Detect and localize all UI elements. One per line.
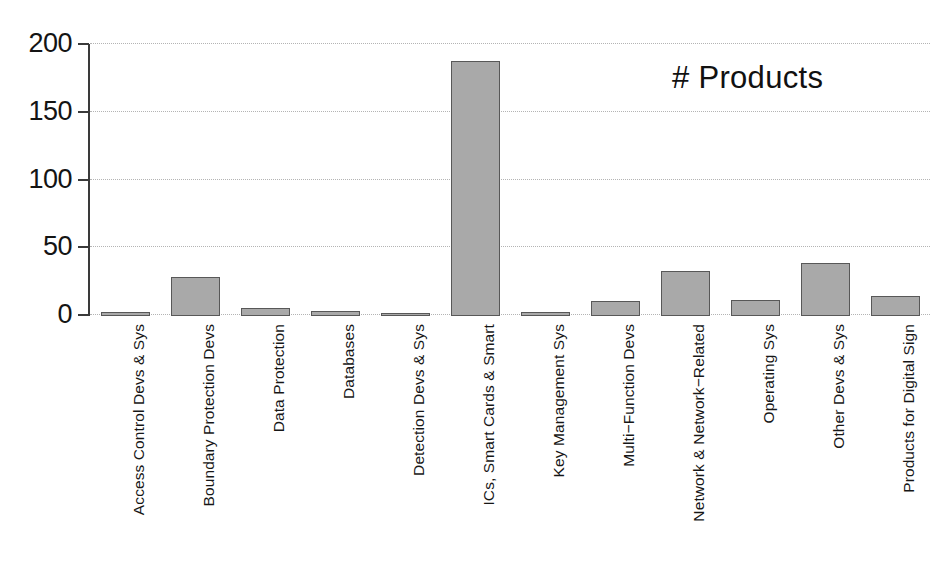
y-tick-mark bbox=[78, 314, 89, 316]
x-axis-labels: Access Control Devs & SysBoundary Protec… bbox=[90, 318, 930, 586]
y-tick-label: 200 bbox=[28, 30, 72, 57]
y-tick-mark bbox=[78, 179, 89, 181]
y-tick-mark bbox=[78, 111, 89, 113]
bar bbox=[661, 271, 710, 316]
x-axis-label: Key Management Sys bbox=[551, 324, 567, 477]
y-tick-label: 0 bbox=[57, 301, 72, 328]
bar bbox=[311, 311, 360, 316]
legend-label: # Products bbox=[672, 62, 823, 93]
x-axis-label: Network & Network−Related bbox=[691, 324, 707, 522]
bar bbox=[381, 313, 430, 316]
bar bbox=[801, 263, 850, 316]
bar bbox=[871, 296, 920, 316]
x-axis-label: Boundary Protection Devs bbox=[201, 324, 217, 506]
bar bbox=[101, 312, 150, 316]
x-axis-label: Other Devs & Sys bbox=[831, 324, 847, 449]
x-axis-label: ICs, Smart Cards & Smart bbox=[481, 324, 497, 506]
bar-chart: 050100150200 Access Control Devs & SysBo… bbox=[0, 0, 945, 586]
bar bbox=[731, 300, 780, 316]
y-tick-label: 50 bbox=[43, 233, 72, 260]
bar bbox=[171, 277, 220, 316]
x-axis-label: Data Protection bbox=[271, 324, 287, 432]
x-axis-label: Products for Digital Sign bbox=[901, 324, 917, 493]
bar bbox=[521, 312, 570, 316]
y-tick-mark bbox=[78, 246, 89, 248]
y-tick-mark bbox=[78, 43, 89, 45]
y-tick-label: 150 bbox=[28, 98, 72, 125]
bar bbox=[451, 61, 500, 316]
x-axis-label: Multi−Function Devs bbox=[621, 324, 637, 467]
x-axis-label: Detection Devs & Sys bbox=[411, 324, 427, 476]
y-tick-label: 100 bbox=[28, 166, 72, 193]
x-axis-label: Databases bbox=[341, 324, 357, 399]
bar bbox=[591, 301, 640, 316]
bar bbox=[241, 308, 290, 316]
x-axis-label: Operating Sys bbox=[761, 324, 777, 424]
x-axis-label: Access Control Devs & Sys bbox=[131, 324, 147, 515]
